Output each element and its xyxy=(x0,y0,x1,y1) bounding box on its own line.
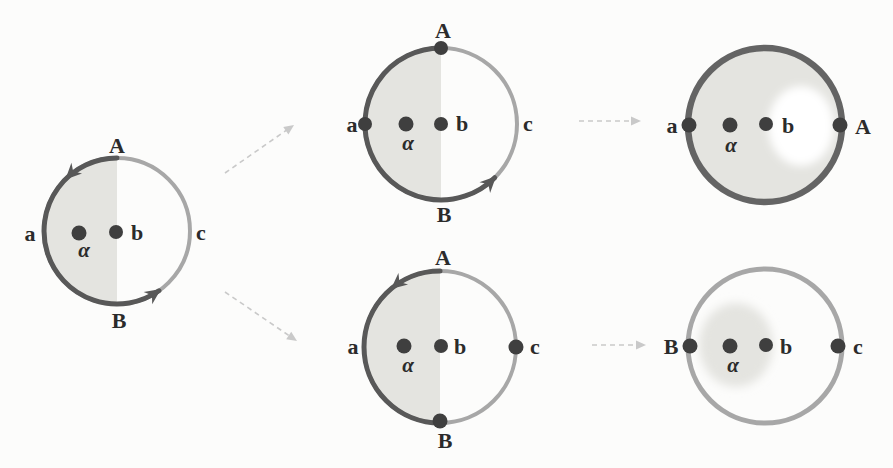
point-a-dot xyxy=(358,117,372,131)
label-c: c xyxy=(196,220,206,245)
white-region xyxy=(768,86,834,166)
flow-arrow-to-bottom xyxy=(225,292,294,339)
label-alpha: α xyxy=(402,353,414,377)
label-a: a xyxy=(348,334,359,359)
flow-arrowhead-icon xyxy=(636,341,646,350)
point-b-dot xyxy=(759,338,773,352)
label-alpha: α xyxy=(78,238,90,262)
panel-bottom-right: B α b c xyxy=(664,269,863,423)
label-b: b xyxy=(454,334,466,359)
point-a-dot xyxy=(682,118,697,133)
flow-arrowhead-icon xyxy=(631,117,641,126)
label-alpha: α xyxy=(725,133,737,157)
label-a: a xyxy=(25,221,36,246)
point-b-dot xyxy=(109,225,123,239)
label-b: b xyxy=(782,113,794,138)
label-B: B xyxy=(438,428,453,453)
panel-bottom-middle: A B a b c α xyxy=(348,245,541,453)
circle-dynamics-figure: A B a b c α A B a b c α xyxy=(0,0,893,468)
flow-arrowhead-icon xyxy=(286,332,299,345)
label-B: B xyxy=(664,334,679,359)
point-A-dot xyxy=(434,41,448,55)
point-alpha-dot xyxy=(397,339,412,354)
point-b-dot xyxy=(434,339,448,353)
panel-top-right: a α b A xyxy=(667,48,872,202)
panel-initial: A B a b c α xyxy=(25,133,207,333)
panel-top-middle: A B a b c α xyxy=(347,18,534,227)
label-c: c xyxy=(530,334,540,359)
label-a: a xyxy=(347,112,358,137)
point-c-dot xyxy=(509,340,524,355)
point-b-dot xyxy=(759,117,773,131)
label-b: b xyxy=(780,334,792,359)
point-alpha-dot xyxy=(399,117,414,132)
label-alpha: α xyxy=(402,131,414,155)
label-B: B xyxy=(437,202,452,227)
point-alpha-dot xyxy=(723,339,738,354)
label-B: B xyxy=(112,308,127,333)
label-c: c xyxy=(523,111,533,136)
figure-canvas: A B a b c α A B a b c α xyxy=(0,0,893,468)
label-b: b xyxy=(456,111,468,136)
label-A: A xyxy=(435,18,451,43)
label-a: a xyxy=(667,113,678,138)
label-b: b xyxy=(131,220,143,245)
point-c-dot xyxy=(831,339,846,354)
point-A-dot xyxy=(833,118,848,133)
label-c: c xyxy=(853,334,863,359)
flow-arrowhead-icon xyxy=(283,121,296,134)
point-alpha-dot xyxy=(723,118,738,133)
label-A: A xyxy=(855,114,871,139)
point-b-dot xyxy=(434,117,448,131)
label-alpha: α xyxy=(727,353,739,377)
point-B-dot xyxy=(683,339,698,354)
flow-arrow-to-top xyxy=(225,127,291,173)
label-A: A xyxy=(435,245,451,270)
label-A: A xyxy=(109,133,125,158)
point-B-dot xyxy=(433,414,448,429)
